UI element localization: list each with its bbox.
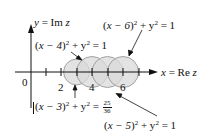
tick-label-4: 4	[89, 82, 95, 93]
equation-circle-5: (x − 5)2 + y2 = 1	[104, 120, 176, 131]
x-axis-arrow-icon	[149, 69, 158, 75]
tick-label-6: 6	[120, 82, 126, 93]
equation-circle-3: (x − 3)2 + y2 = 2536	[33, 100, 112, 115]
tick-label-2: 2	[58, 82, 64, 93]
axis-continuation	[33, 102, 34, 114]
origin-label: 0	[22, 77, 28, 88]
fraction-25-36: 2536	[103, 100, 112, 115]
y-axis-label: y = Im z	[34, 17, 70, 28]
complex-plane-diagram: y = Im z x = Re z 0 2 4 6 (x − 4)2 + y2 …	[0, 0, 213, 140]
x-axis-label: x = Re z	[161, 67, 197, 78]
equation-circle-4: (x − 4)2 + y2 = 1	[35, 40, 107, 51]
equation-circle-6: (x − 6)2 + y2 = 1	[103, 20, 175, 31]
